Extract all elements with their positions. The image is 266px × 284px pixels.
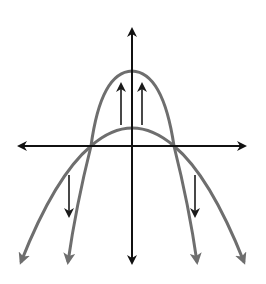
- narrow-parabola-left-branch: [68, 146, 91, 262]
- parabola-stretch-diagram: [0, 0, 266, 284]
- wide-parabola-right-branch: [174, 146, 244, 262]
- wide-parabola-left-branch: [21, 146, 91, 262]
- narrow-parabola-right-branch: [174, 146, 197, 262]
